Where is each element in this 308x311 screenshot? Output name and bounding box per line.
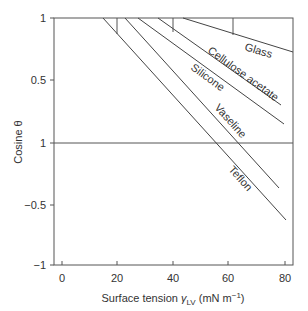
x-tick-label: 80 <box>279 272 291 284</box>
critical-markers <box>117 18 233 35</box>
chart: 1 0.5 1 −0.5 −1 0 20 40 60 80 Surface te… <box>0 0 308 311</box>
label-silicone: Silicone <box>189 61 227 93</box>
y-tick-label: 1 <box>40 137 46 149</box>
y-axis-label: Cosine θ <box>12 120 24 163</box>
y-tick-label: −0.5 <box>24 199 46 211</box>
y-tick-label: 0.5 <box>31 74 46 86</box>
x-tick-label: 0 <box>59 272 65 284</box>
x-tick-label: 40 <box>167 272 179 284</box>
label-glass: Glass <box>243 40 274 60</box>
label-teflon: Teflon <box>227 163 256 193</box>
y-axis <box>50 18 54 265</box>
x-axis <box>62 261 285 265</box>
x-axis-label: Surface tension γLV (mN m−1) <box>101 291 244 307</box>
y-tick-label: 1 <box>40 12 46 24</box>
x-tick-label: 20 <box>111 272 123 284</box>
x-tick-label: 60 <box>222 272 234 284</box>
y-tick-label: −1 <box>33 259 46 271</box>
